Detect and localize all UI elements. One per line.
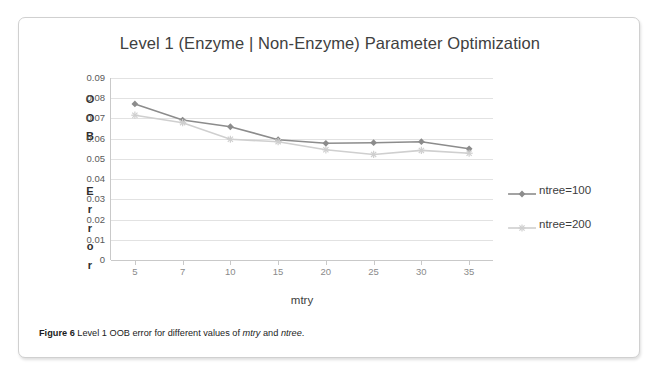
y-axis-tick-label: 0.02 xyxy=(71,215,105,225)
data-point-star xyxy=(518,224,525,231)
y-axis-tick-label: 0 xyxy=(71,255,105,265)
y-axis-tick-label: 0.01 xyxy=(71,235,105,245)
x-axis-tick-label: 20 xyxy=(311,266,341,277)
caption-italic-ntree: ntree xyxy=(281,328,302,338)
caption-figure-number: Figure 6 xyxy=(39,328,75,338)
y-axis-tick-label: 0.07 xyxy=(71,113,105,123)
legend-marker-diamond-icon xyxy=(507,186,537,198)
chart-legend: ntree=100ntree=200 xyxy=(507,180,637,248)
data-point-diamond xyxy=(227,123,234,130)
data-point-star xyxy=(179,119,186,126)
series-lines xyxy=(111,78,493,260)
legend-marker-star-icon xyxy=(507,220,537,232)
chart-plot-wrapper: OOB Error 0.090.080.070.060.050.040.030.… xyxy=(19,18,641,359)
data-point-diamond xyxy=(370,139,377,146)
y-axis-tick-label: 0.05 xyxy=(71,154,105,164)
data-point-star xyxy=(418,147,425,154)
x-axis-tick-labels: 57101520253035 xyxy=(111,266,493,280)
data-point-diamond xyxy=(519,191,526,198)
caption-text-1: Level 1 OOB error for different values o… xyxy=(75,328,243,338)
data-point-star xyxy=(131,112,138,119)
y-axis-tick-label: 0.06 xyxy=(71,134,105,144)
x-axis-tick-label: 5 xyxy=(120,266,150,277)
x-axis-tick xyxy=(278,260,279,265)
y-axis-tick-label: 0.08 xyxy=(71,93,105,103)
y-axis-tick-labels: 0.090.080.070.060.050.040.030.020.010 xyxy=(71,78,105,260)
x-axis-line xyxy=(111,260,493,261)
x-axis-tick xyxy=(374,260,375,265)
x-axis-tick xyxy=(230,260,231,265)
x-axis-tick xyxy=(421,260,422,265)
y-axis-tick-label: 0.09 xyxy=(71,73,105,83)
y-axis-tick-label: 0.03 xyxy=(71,194,105,204)
x-axis-tick-label: 7 xyxy=(168,266,198,277)
data-point-star xyxy=(466,150,473,157)
data-point-diamond xyxy=(418,138,425,145)
y-axis-tick-label: 0.04 xyxy=(71,174,105,184)
data-point-star xyxy=(227,136,234,143)
x-axis-tick xyxy=(183,260,184,265)
x-axis-tick-label: 35 xyxy=(454,266,484,277)
x-axis-title: mtry xyxy=(111,294,493,306)
data-point-diamond xyxy=(131,100,138,107)
legend-label: ntree=200 xyxy=(539,218,591,230)
x-axis-tick xyxy=(326,260,327,265)
legend-item[interactable]: ntree=200 xyxy=(507,214,637,248)
x-axis-tick xyxy=(469,260,470,265)
caption-text-2: and xyxy=(260,328,280,338)
figure-caption: Figure 6 Level 1 OOB error for different… xyxy=(39,327,624,339)
data-point-diamond xyxy=(322,140,329,147)
caption-italic-mtry: mtry xyxy=(243,328,261,338)
x-axis-tick-label: 25 xyxy=(359,266,389,277)
x-axis-tick-label: 30 xyxy=(406,266,436,277)
legend-item[interactable]: ntree=100 xyxy=(507,180,637,214)
caption-text-3: . xyxy=(302,328,305,338)
plot-area xyxy=(111,78,493,260)
x-axis-tick-label: 15 xyxy=(263,266,293,277)
legend-label: ntree=100 xyxy=(539,184,591,196)
data-point-star xyxy=(370,151,377,158)
figure-frame: Level 1 (Enzyme | Non-Enzyme) Parameter … xyxy=(18,17,640,358)
x-axis-tick-label: 10 xyxy=(215,266,245,277)
x-axis-tick xyxy=(135,260,136,265)
data-point-star xyxy=(275,138,282,145)
data-point-star xyxy=(322,146,329,153)
